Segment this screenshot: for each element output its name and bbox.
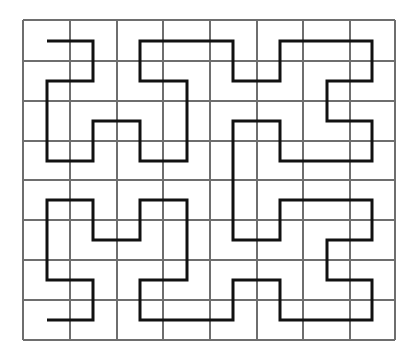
grid <box>23 20 395 340</box>
hilbert-curve-diagram <box>0 0 413 358</box>
